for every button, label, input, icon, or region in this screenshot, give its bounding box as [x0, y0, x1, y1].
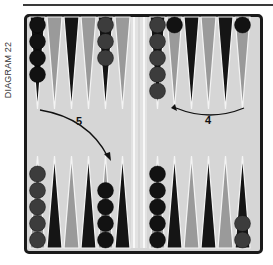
checker-black[interactable] [98, 216, 114, 232]
checker-black[interactable] [98, 232, 114, 248]
point-top-6[interactable] [115, 17, 130, 109]
move-label-5: 5 [76, 115, 82, 127]
checker-black[interactable] [30, 67, 46, 83]
checker-gray[interactable] [98, 17, 114, 33]
checker-gray[interactable] [150, 67, 166, 83]
checker-gray[interactable] [30, 232, 46, 248]
point-bottom-2[interactable] [47, 156, 62, 248]
checker-gray[interactable] [235, 216, 251, 232]
checker-gray[interactable] [150, 17, 166, 33]
checker-black[interactable] [150, 232, 166, 248]
point-bottom-8[interactable] [167, 156, 182, 248]
checker-gray[interactable] [30, 199, 46, 215]
checker-black[interactable] [98, 199, 114, 215]
point-bottom-9[interactable] [184, 156, 199, 248]
checker-gray[interactable] [98, 34, 114, 50]
checker-black[interactable] [150, 199, 166, 215]
checker-gray[interactable] [150, 50, 166, 66]
board-drawing [0, 0, 273, 265]
checker-black[interactable] [98, 183, 114, 199]
point-bottom-4[interactable] [81, 156, 96, 248]
point-bottom-10[interactable] [201, 156, 216, 248]
checker-black[interactable] [30, 34, 46, 50]
checker-gray[interactable] [235, 232, 251, 248]
point-top-11[interactable] [218, 17, 233, 109]
point-top-9[interactable] [184, 17, 199, 109]
move-label-4: 4 [205, 114, 211, 126]
checker-gray[interactable] [30, 183, 46, 199]
point-top-10[interactable] [201, 17, 216, 109]
checker-black[interactable] [150, 166, 166, 182]
checker-gray[interactable] [98, 50, 114, 66]
checker-black[interactable] [167, 17, 183, 33]
checker-black[interactable] [30, 50, 46, 66]
checker-gray[interactable] [30, 166, 46, 182]
checker-black[interactable] [150, 183, 166, 199]
point-top-4[interactable] [81, 17, 96, 109]
checker-gray[interactable] [30, 216, 46, 232]
checker-black[interactable] [150, 216, 166, 232]
point-top-3[interactable] [64, 17, 79, 109]
checker-black[interactable] [235, 17, 251, 33]
checker-gray[interactable] [150, 34, 166, 50]
point-bottom-3[interactable] [64, 156, 79, 248]
point-bottom-11[interactable] [218, 156, 233, 248]
point-top-2[interactable] [47, 17, 62, 109]
point-bottom-6[interactable] [115, 156, 130, 248]
checker-black[interactable] [30, 17, 46, 33]
checker-gray[interactable] [150, 83, 166, 99]
